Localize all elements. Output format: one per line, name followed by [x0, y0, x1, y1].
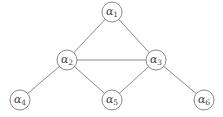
node-alpha-1: α1	[102, 2, 122, 22]
node-subscript: 5	[113, 98, 118, 107]
node-alpha-3: α3	[146, 50, 166, 70]
node-alpha-5: α5	[102, 90, 122, 110]
node-subscript: 6	[205, 98, 210, 107]
nodes-layer: α1 α2 α3 α4 α5	[10, 2, 214, 110]
node-subscript: 2	[68, 58, 73, 67]
node-alpha-6: α6	[194, 90, 214, 110]
node-subscript: 1	[113, 10, 118, 19]
node-alpha-2: α2	[57, 50, 77, 70]
edges-layer	[20, 12, 204, 100]
node-subscript: 3	[157, 58, 162, 67]
node-subscript: 4	[21, 98, 26, 107]
node-alpha-4: α4	[10, 90, 30, 110]
graph-diagram: α1 α2 α3 α4 α5	[0, 0, 223, 117]
